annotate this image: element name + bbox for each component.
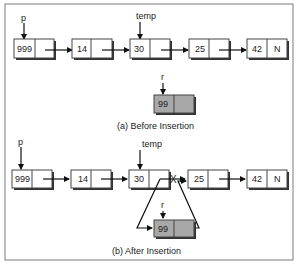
node-value: 14 xyxy=(77,44,87,54)
node-value: 30 xyxy=(134,44,144,54)
list-node: 42 N xyxy=(247,170,289,190)
new-node: 99 xyxy=(154,95,196,115)
broken-link-mark: X xyxy=(170,174,177,185)
node-value: 999 xyxy=(15,174,30,184)
node-value: 30 xyxy=(134,174,144,184)
list-node: 30 xyxy=(129,170,171,190)
pointer-label-r: r xyxy=(161,72,164,82)
null-pointer: N xyxy=(274,174,281,184)
node-value: 999 xyxy=(17,44,32,54)
node-value: 25 xyxy=(194,174,204,184)
node-value: 42 xyxy=(252,44,262,54)
pointer-label-p: p xyxy=(18,137,23,147)
list-node: 14 xyxy=(71,170,113,190)
linked-list-insertion-diagram: p temp 999 14 30 xyxy=(0,0,299,265)
null-pointer: N xyxy=(274,44,281,54)
panel-caption: (a) Before Insertion xyxy=(117,121,194,131)
node-value: 25 xyxy=(195,44,205,54)
pointer-label-temp: temp xyxy=(142,139,162,149)
node-value: 42 xyxy=(252,174,262,184)
list-node: 999 xyxy=(12,170,54,190)
pointer-label-p: p xyxy=(21,13,26,23)
node-value: 99 xyxy=(158,224,168,234)
node-value: 14 xyxy=(78,174,88,184)
new-node: 99 xyxy=(154,220,196,239)
node-value: 99 xyxy=(158,99,168,109)
list-node: 42 N xyxy=(247,39,289,60)
pointer-label-r: r xyxy=(161,200,164,210)
panel-caption: (b) After Insertion xyxy=(112,246,181,256)
pointer-label-temp: temp xyxy=(136,11,156,21)
list-node: 25 xyxy=(188,170,230,190)
